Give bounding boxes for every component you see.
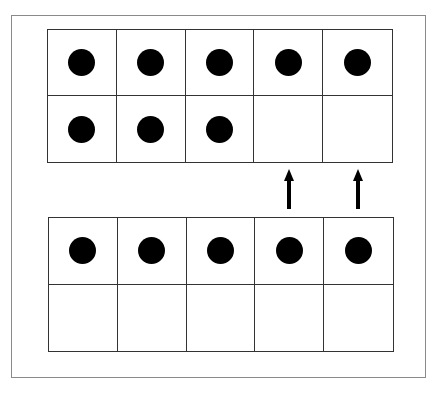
ten-frame-cell [324,285,393,352]
ten-frame-cell [117,96,186,162]
ten-frame-cell [254,30,323,96]
counter-dot-icon [138,237,165,264]
ten-frame-cell [187,218,256,285]
ten-frame-cell [323,96,392,162]
up-arrow-icon [353,169,363,209]
counter-dot-icon [206,49,233,76]
ten-frame-cell [118,218,187,285]
ten-frame-cell [324,218,393,285]
counter-dot-icon [69,237,96,264]
ten-frame-cell [186,30,255,96]
counter-dot-icon [137,116,164,143]
ten-frame-cell [117,30,186,96]
ten-frame-cell [49,218,118,285]
up-arrow-icon [284,169,294,209]
ten-frame-cell [186,96,255,162]
ten-frame-cell [254,96,323,162]
ten-frame-cell [118,285,187,352]
ten-frame-cell [49,285,118,352]
counter-dot-icon [207,237,234,264]
ten-frame-cell [255,285,324,352]
counter-dot-icon [68,116,95,143]
ten-frame-cell [255,218,324,285]
counter-dot-icon [344,49,371,76]
ten-frame-cell [187,285,256,352]
counter-dot-icon [68,49,95,76]
counter-dot-icon [276,237,303,264]
counter-dot-icon [345,237,372,264]
ten-frame-cell [48,96,117,162]
counter-dot-icon [137,49,164,76]
ten-frame-cell [48,30,117,96]
top-ten-frame [47,29,393,163]
counter-dot-icon [206,116,233,143]
bottom-ten-frame [48,217,394,352]
ten-frame-cell [323,30,392,96]
counter-dot-icon [275,49,302,76]
